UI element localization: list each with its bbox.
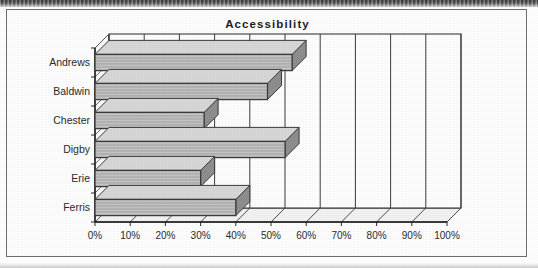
x-axis-label-30: 30%	[184, 230, 218, 241]
scan-artifact-bottom-band	[0, 263, 538, 268]
x-axis-label-90: 90%	[395, 230, 429, 241]
x-axis-label-20: 20%	[148, 230, 182, 241]
chart-frame: Accessibility Andrews: 56%Baldwin: 49%Ch…	[6, 9, 527, 257]
x-axis-label-60: 60%	[289, 230, 323, 241]
x-axis-label-70: 70%	[324, 230, 358, 241]
x-axis-label-50: 50%	[254, 230, 288, 241]
x-axis-label-10: 10%	[113, 230, 147, 241]
x-axis-label-40: 40%	[219, 230, 253, 241]
x-axis-label-100: 100%	[430, 230, 464, 241]
scan-artifact-top-band	[0, 0, 538, 7]
x-axis-label-80: 80%	[360, 230, 394, 241]
x-axis-tick-labels: 0%10%20%30%40%50%60%70%80%90%100%	[7, 10, 528, 258]
x-axis-label-0: 0%	[78, 230, 112, 241]
